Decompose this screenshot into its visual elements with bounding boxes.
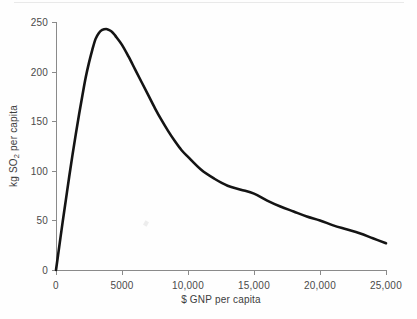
y-axis-title-prefix: kg SO xyxy=(8,158,19,187)
y-axis-title-subscript: 2 xyxy=(12,154,21,158)
x-axis-tick-label: 15,000 xyxy=(238,280,270,291)
chart-figure: 050100150200250 0500010,00015,00020,0002… xyxy=(0,0,417,319)
y-axis-tick-marks xyxy=(52,23,56,271)
y-axis-tick-label: 0 xyxy=(20,265,48,276)
x-axis-tick-label: 25,000 xyxy=(370,280,402,291)
chart-plot-svg xyxy=(0,0,417,319)
y-axis-tick-label: 50 xyxy=(20,215,48,226)
x-axis-tick-label: 10,000 xyxy=(172,280,204,291)
y-axis-tick-label: 250 xyxy=(20,17,48,28)
x-axis-tick-label: 20,000 xyxy=(304,280,336,291)
y-axis-tick-label: 200 xyxy=(20,66,48,77)
data-series-line xyxy=(56,29,386,270)
x-axis-tick-label: 0 xyxy=(53,280,59,291)
y-axis-tick-label: 100 xyxy=(20,165,48,176)
x-axis-tick-label: 5000 xyxy=(110,280,133,291)
y-axis-title-suffix: per capita xyxy=(8,105,19,154)
x-axis-title: $ GNP per capita xyxy=(181,294,261,305)
y-axis-title: kg SO2 per capita xyxy=(8,105,19,187)
y-axis-tick-label: 150 xyxy=(20,116,48,127)
